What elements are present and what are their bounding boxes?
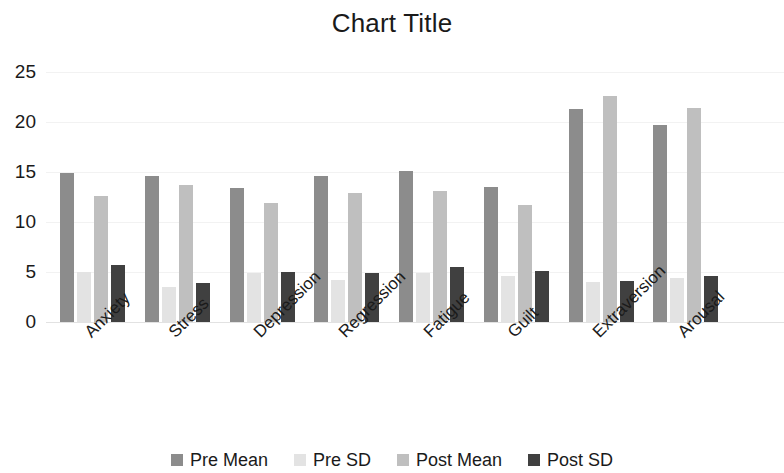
legend-item[interactable]: Post SD bbox=[528, 451, 613, 469]
bar-group bbox=[145, 72, 210, 322]
bar-chart: Chart Title 0510152025 AnxietyStressDepr… bbox=[0, 0, 784, 473]
bar bbox=[603, 96, 617, 322]
y-axis-tick-label: 15 bbox=[15, 162, 36, 181]
bar-group bbox=[314, 72, 379, 322]
y-axis-tick-label: 10 bbox=[15, 212, 36, 231]
y-axis-tick-label: 20 bbox=[15, 112, 36, 131]
bar-group bbox=[569, 72, 634, 322]
bar bbox=[230, 188, 244, 322]
bar-group bbox=[484, 72, 549, 322]
bar-group bbox=[399, 72, 464, 322]
bar bbox=[670, 278, 684, 322]
y-axis-tick-label: 0 bbox=[25, 312, 36, 331]
bar bbox=[331, 280, 345, 322]
bar bbox=[653, 125, 667, 322]
legend-label: Post SD bbox=[547, 451, 613, 469]
bar bbox=[314, 176, 328, 322]
bar-group bbox=[60, 72, 125, 322]
y-axis-tick-label: 25 bbox=[15, 62, 36, 81]
y-axis-tick-label: 5 bbox=[25, 262, 36, 281]
axis-baseline bbox=[46, 322, 784, 323]
bar bbox=[60, 173, 74, 322]
chart-title: Chart Title bbox=[0, 8, 784, 39]
x-axis: AnxietyStressDepressionRegressionFatigue… bbox=[46, 324, 784, 434]
legend-label: Post Mean bbox=[416, 451, 502, 469]
bar bbox=[399, 171, 413, 322]
legend-item[interactable]: Pre Mean bbox=[171, 451, 268, 469]
bar-group bbox=[230, 72, 295, 322]
bar bbox=[484, 187, 498, 322]
bar bbox=[501, 276, 515, 322]
bar bbox=[687, 108, 701, 322]
legend-item[interactable]: Pre SD bbox=[294, 451, 371, 469]
legend-swatch-icon bbox=[294, 454, 306, 466]
bar bbox=[77, 272, 91, 322]
chart-legend: Pre MeanPre SDPost MeanPost SD bbox=[0, 446, 784, 473]
bar bbox=[162, 287, 176, 322]
bar-group bbox=[653, 72, 718, 322]
legend-swatch-icon bbox=[171, 454, 183, 466]
y-axis: 0510152025 bbox=[0, 0, 46, 473]
legend-label: Pre Mean bbox=[190, 451, 268, 469]
bar bbox=[145, 176, 159, 322]
legend-swatch-icon bbox=[397, 454, 409, 466]
plot-area bbox=[46, 72, 784, 322]
legend-item[interactable]: Post Mean bbox=[397, 451, 502, 469]
bar bbox=[586, 282, 600, 322]
legend-label: Pre SD bbox=[313, 451, 371, 469]
bar bbox=[247, 273, 261, 322]
bar bbox=[416, 273, 430, 322]
bar bbox=[569, 109, 583, 322]
legend-swatch-icon bbox=[528, 454, 540, 466]
